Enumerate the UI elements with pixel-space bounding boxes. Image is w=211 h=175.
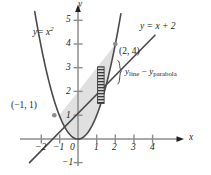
representative-rectangle	[98, 67, 105, 104]
y-tick-label-5: 5	[66, 15, 71, 25]
x-tick-label-3: 3	[131, 143, 136, 153]
x-tick-label-neg2: −2	[35, 143, 46, 153]
parabola-label-exponent: 2	[50, 25, 53, 32]
x-tick-label-4: 4	[150, 143, 155, 153]
y-tick-label-4: 4	[66, 39, 71, 49]
x-axis-label: x	[189, 133, 193, 143]
point-marker-lower	[52, 113, 57, 118]
y-tick-label-neg1: −1	[62, 158, 73, 168]
x-tick-label-2: 2	[112, 143, 117, 153]
figure-area-between-curves: y x −2 −1 0 1 2 3 4 −1 1 2 3 4 5 y= x2 y…	[0, 0, 211, 175]
parabola-equation-label: y= x2	[33, 26, 54, 38]
x-tick-label-neg1: −1	[53, 143, 64, 153]
difference-annotation: yline−yparabola	[125, 67, 177, 76]
point-label-lower: (−1, 1)	[11, 101, 37, 111]
x-tick-label-1: 1	[94, 143, 99, 153]
y-tick-label-3: 3	[66, 63, 71, 73]
y-tick-label-1: 1	[66, 111, 71, 121]
point-label-upper: (2, 4)	[119, 47, 140, 57]
point-marker-upper	[113, 42, 118, 47]
line-equation-label: y = x + 2	[140, 22, 176, 32]
x-axis-arrow	[177, 136, 185, 142]
plot-canvas	[0, 0, 211, 175]
x-tick-label-0: 0	[70, 143, 75, 153]
diff-sub-parabola: parabola	[153, 70, 176, 77]
parabola-label-eq: = x	[37, 27, 50, 37]
diff-minus-sign: −	[139, 66, 149, 76]
y-tick-label-2: 2	[66, 87, 71, 97]
y-axis-label: y	[78, 0, 82, 10]
diff-sub-line: line	[129, 70, 139, 77]
